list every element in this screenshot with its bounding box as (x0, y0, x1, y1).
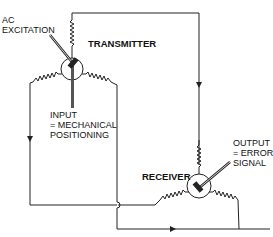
input-shaft (71, 66, 74, 108)
transmitter-right-coil (82, 72, 117, 85)
receiver-right-coil (209, 190, 239, 229)
transmitter-label: TRANSMITTER (88, 39, 156, 49)
arrow-down-right (196, 82, 202, 88)
transmitter-left-coil (30, 72, 62, 83)
wire-right-lower (117, 208, 270, 229)
input-label: INPUT = MECHANICAL POSITIONING (50, 110, 117, 140)
arrow-down-left (27, 136, 33, 142)
receiver-label: RECEIVER (142, 172, 191, 182)
ac-excitation-lead-inner (50, 35, 72, 62)
arrow-right-bottom (170, 226, 176, 232)
receiver-left-coil (118, 190, 189, 205)
ac-excitation-label: AC EXCITATION (2, 15, 55, 35)
wire-top (72, 13, 199, 165)
output-label: OUTPUT = ERROR SIGNAL (233, 138, 273, 168)
synchro-diagram (0, 0, 273, 237)
transmitter-top-coil (70, 13, 74, 58)
